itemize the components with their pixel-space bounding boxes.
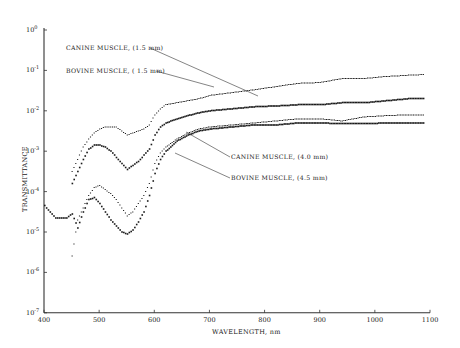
y-tick-label: 10-1 <box>26 64 39 74</box>
transmittance-chart: 10010-110-210-310-410-510-610-7400500600… <box>0 0 460 348</box>
label-bovine-1-5mm: BOVINE MUSCLE, ( 1.5 mm) <box>66 67 165 74</box>
label-canine-4-0mm: CANINE MUSCLE, (4.0 mm) <box>231 153 328 160</box>
arrow-bovine-4-5mm <box>175 153 230 178</box>
y-tick-label: 100 <box>26 24 37 34</box>
x-tick-label: 700 <box>203 316 215 324</box>
label-bovine-4-5mm: BOVINE MUSCLE, (4.5 mm) <box>231 174 328 181</box>
x-tick-label: 800 <box>258 316 270 324</box>
x-tick-label: 600 <box>148 316 160 324</box>
x-tick-label: 1100 <box>422 316 439 324</box>
label-canine-1-5mm: CANINE MUSCLE, (1.5 mm) <box>66 44 163 51</box>
x-axis-label: WAVELENGTH, nm <box>212 328 281 336</box>
y-tick-label: 10-6 <box>26 266 39 276</box>
x-tick-label: 900 <box>314 316 326 324</box>
y-tick-label: 10-5 <box>26 226 39 236</box>
y-axis-label: TRANSMITTANCE <box>21 146 29 212</box>
x-tick-label: 500 <box>93 316 105 324</box>
data-series <box>44 74 424 257</box>
series-1 <box>72 98 425 185</box>
annotations: CANINE MUSCLE, (1.5 mm) BOVINE MUSCLE, (… <box>21 44 328 336</box>
x-tick-label: 1000 <box>367 316 384 324</box>
arrow-canine-4-0mm <box>186 132 230 157</box>
x-tick-label: 400 <box>38 316 50 324</box>
arrow-bovine-1-5mm <box>156 71 214 87</box>
arrow-canine-1-5mm <box>150 48 258 96</box>
y-tick-label: 10-2 <box>26 105 39 115</box>
series-2 <box>72 115 424 257</box>
